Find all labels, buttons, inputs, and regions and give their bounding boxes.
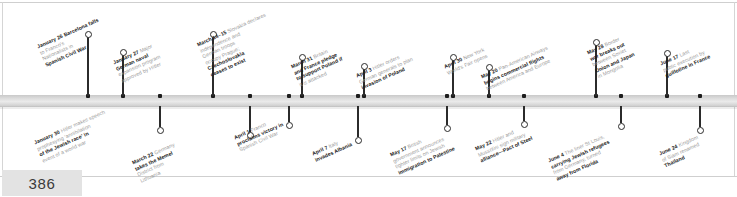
- axis-marker: [522, 94, 527, 99]
- event-stem: [357, 106, 358, 137]
- event-caption: March 14–15 Slovakia declaresindependenc…: [196, 12, 280, 79]
- event-node-icon: [157, 127, 164, 134]
- page-number: 386: [2, 170, 82, 196]
- timeline-page: January 26 Barcelona fallsto Franco'sNat…: [0, 0, 737, 197]
- axis-marker: [248, 94, 253, 99]
- event-caption: January 27 MajorGerman navalexpansion pr…: [112, 42, 164, 85]
- axis-marker: [158, 94, 163, 99]
- event-stem: [523, 106, 524, 121]
- event-stem: [620, 106, 621, 123]
- event-caption: April 3 Hitler ordersGerman generals to …: [355, 49, 416, 91]
- axis-marker: [698, 94, 703, 99]
- event-caption: March 22 Germanytakes the MemelDistrict …: [131, 141, 184, 184]
- axis-marker: [287, 94, 292, 99]
- page-border-bottom: [0, 176, 737, 177]
- event-node-icon: [286, 122, 293, 129]
- event-node-icon: [618, 123, 625, 130]
- event-caption: March 31 Britainand France pledgeto supp…: [290, 44, 346, 88]
- event-caption: June 17 Lastpublic execution byguillotin…: [659, 41, 711, 79]
- event-node-icon: [355, 137, 362, 144]
- page-border-top: [0, 2, 737, 3]
- page-border-right: [734, 2, 735, 176]
- axis-marker: [356, 94, 361, 99]
- event-stem: [699, 106, 700, 127]
- event-caption: June 24 Kingdomof Siam renamedThailand: [658, 134, 704, 169]
- event-caption: April 30 New YorkWorld's Fair opens: [443, 46, 488, 76]
- axis-marker: [445, 94, 450, 99]
- event-stem: [446, 106, 447, 125]
- timeline-axis-bar: [0, 95, 737, 107]
- event-caption: May 17 Britishgovernment announcestighte…: [389, 127, 456, 176]
- event-caption: January 30 Hitler makes speechprophesyin…: [33, 109, 114, 164]
- event-caption: May 20 Pan-American Airwaysbegins commer…: [480, 45, 554, 92]
- axis-marker: [619, 94, 624, 99]
- event-node-icon: [697, 127, 704, 134]
- event-caption: April 1 Francoproclaims victory inSpanis…: [233, 115, 287, 153]
- page-border-left: [2, 2, 3, 176]
- event-caption: May 22 Hitler andMussolini sign military…: [474, 123, 534, 164]
- event-caption: January 26 Barcelona fallsto Franco'sNat…: [36, 17, 108, 68]
- event-caption: June 4 The liner St Louis,carrying Jewis…: [547, 132, 616, 182]
- event-stem: [288, 106, 289, 122]
- event-caption: April 7 Italyinvades Albania: [311, 135, 353, 163]
- event-stem: [159, 106, 160, 127]
